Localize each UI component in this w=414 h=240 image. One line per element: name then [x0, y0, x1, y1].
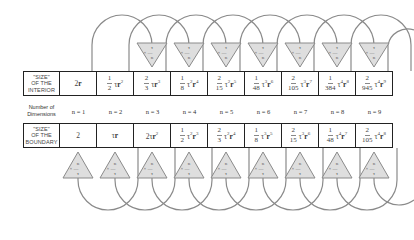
dimension-value: n = 9	[356, 100, 393, 122]
formula-term: τr2	[114, 79, 123, 89]
operator-den: n	[359, 55, 389, 60]
interior-cell: 215τ2r5	[208, 71, 245, 96]
operator-den: n	[174, 55, 204, 60]
multiply-n-over-tau-triangle: n× —τ	[174, 158, 204, 182]
denominator: 3	[145, 84, 149, 92]
multiply-n-over-tau-triangle: n× —τ	[285, 158, 315, 182]
multiply-tau-over-n-triangle: τ× —n	[285, 42, 315, 66]
numerator: 2	[291, 127, 297, 136]
operator-den: τ	[63, 171, 93, 176]
denominator: 105	[362, 136, 373, 144]
denominator: 15	[216, 84, 223, 92]
multiply-n-over-tau-triangle: n× —τ	[137, 158, 167, 182]
coefficient-fraction: 2105	[288, 75, 299, 92]
interior-cell: 148τ3r6	[245, 71, 282, 96]
formula-term: τ4r8	[375, 131, 386, 141]
boundary-cell: 2	[60, 123, 97, 148]
dimension-value: n = 5	[208, 100, 245, 122]
multiply-n-over-tau-triangle: n× —τ	[359, 158, 389, 182]
boundary-row: "SIZE" OF THE BOUNDARY 2τr2τr212τ2r323τ2…	[23, 123, 393, 148]
operator-den: n	[248, 55, 278, 60]
formula-term: τr3	[151, 79, 160, 89]
numerator: 2	[365, 75, 371, 84]
interior-cell: 2r	[60, 71, 97, 96]
formula-term: τ2r4	[224, 131, 235, 141]
multiply-n-over-tau-triangle: n× —τ	[211, 158, 241, 182]
formula-term: τr	[112, 131, 118, 140]
boundary-cell: 23τ2r4	[208, 123, 245, 148]
boundary-cell: 2τr2	[134, 123, 171, 148]
formula-term: τ2r5	[225, 79, 236, 89]
operator-den: τ	[322, 171, 352, 176]
denominator: 105	[288, 84, 299, 92]
interior-cell: 2945τ4r9	[356, 71, 393, 96]
numerator: 2	[365, 127, 371, 136]
coefficient-fraction: 2105	[362, 127, 373, 144]
operator-den: τ	[359, 171, 389, 176]
dimension-value: n = 3	[134, 100, 171, 122]
interior-cell: 12τr2	[97, 71, 134, 96]
coefficient-fraction: 1384	[325, 75, 336, 92]
coefficient-fraction: 23	[144, 75, 150, 92]
denominator: 2	[181, 136, 185, 144]
coefficient-fraction: 2945	[362, 75, 373, 92]
coefficient-fraction: 215	[216, 75, 223, 92]
denominator: 8	[181, 84, 185, 92]
formula-term: τ4r8	[338, 79, 349, 89]
denominator: 48	[327, 136, 334, 144]
dimension-value: n = 1	[60, 100, 97, 122]
interior-cell: 23τr3	[134, 71, 171, 96]
label-line: Number of	[27, 104, 56, 111]
header-line: INTERIOR	[28, 87, 55, 93]
operator-den: n	[137, 55, 167, 60]
numerator: 1	[107, 75, 113, 84]
boundary-cell: 12τ2r3	[171, 123, 208, 148]
boundary-cell: τr	[97, 123, 134, 148]
coefficient-fraction: 12	[107, 75, 113, 92]
multiply-n-over-tau-triangle: n× —τ	[63, 158, 93, 182]
denominator: 48	[253, 84, 260, 92]
operator-den: τ	[211, 171, 241, 176]
numerator: 1	[328, 75, 334, 84]
multiply-tau-over-n-triangle: τ× —n	[248, 42, 278, 66]
coefficient-fraction: 18	[180, 75, 186, 92]
boundary-header: "SIZE" OF THE BOUNDARY	[23, 123, 60, 148]
operator-den: n	[285, 55, 315, 60]
interior-cell: 2105τ3r7	[282, 71, 319, 96]
interior-row: "SIZE" OF THE INTERIOR 2r12τr223τr318τ2r…	[23, 71, 393, 96]
operator-den: n	[211, 55, 241, 60]
formula-term: τ3r5	[261, 131, 272, 141]
formula-term: τ4r7	[336, 131, 347, 141]
header-line: BOUNDARY	[26, 139, 58, 145]
coefficient-fraction: 148	[327, 127, 334, 144]
multiply-tau-over-n-triangle: τ× —n	[322, 42, 352, 66]
multiply-tau-over-n-triangle: τ× —n	[174, 42, 204, 66]
numerator: 2	[291, 75, 297, 84]
dimension-value: n = 7	[282, 100, 319, 122]
operator-den: τ	[248, 171, 278, 176]
operator-den: n	[322, 55, 352, 60]
operator-den: τ	[174, 171, 204, 176]
multiply-tau-over-n-triangle: τ× —n	[211, 42, 241, 66]
denominator: 384	[325, 84, 336, 92]
formula-term: τ3r6	[262, 79, 273, 89]
formula-term: 2τr2	[146, 131, 159, 141]
dimension-value: n = 4	[171, 100, 208, 122]
interior-header: "SIZE" OF THE INTERIOR	[23, 71, 60, 96]
denominator: 2	[108, 84, 112, 92]
coefficient-fraction: 18	[254, 127, 260, 144]
numerator: 1	[254, 75, 260, 84]
formula-term: τ4r9	[375, 79, 386, 89]
numerator: 1	[180, 127, 186, 136]
numerator: 2	[217, 127, 223, 136]
formula-term: τ2r4	[187, 79, 198, 89]
numerator: 2	[217, 75, 223, 84]
interior-cell: 1384τ4r8	[319, 71, 356, 96]
boundary-cell: 18τ3r5	[245, 123, 282, 148]
denominator: 945	[362, 84, 373, 92]
formula-term: τ3r7	[301, 79, 312, 89]
dimension-value: n = 8	[319, 100, 356, 122]
numerator: 1	[180, 75, 186, 84]
dimensions-row: Number of Dimensions n = 1 n = 2 n = 3 n…	[23, 100, 393, 122]
interior-cell: 18τ2r4	[171, 71, 208, 96]
